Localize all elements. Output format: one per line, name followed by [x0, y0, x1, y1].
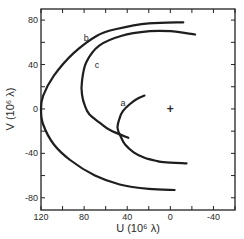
x-tick-label: 0 — [168, 212, 173, 222]
curve-b — [41, 22, 183, 190]
plot-frame — [41, 9, 235, 210]
curve-label-a: a — [120, 98, 125, 108]
curve-label-c: c — [95, 60, 100, 70]
x-tick-label: 80 — [79, 212, 89, 222]
curve-a — [117, 96, 186, 164]
y-tick-label: 0 — [33, 104, 38, 114]
annotations: bca+ — [84, 33, 174, 116]
uv-coverage-chart: 12080400-4080400-40-80 bca+ U (10⁶ λ) V … — [0, 0, 244, 239]
axis-ticks: 12080400-4080400-40-80 — [25, 9, 235, 222]
x-tick-label: 40 — [122, 212, 132, 222]
x-axis-label: U (10⁶ λ) — [116, 222, 160, 234]
origin-marker: + — [167, 102, 174, 116]
y-tick-label: 80 — [28, 15, 38, 25]
x-tick-label: 120 — [33, 212, 48, 222]
curve-label-b: b — [84, 33, 89, 43]
y-tick-label: 40 — [28, 60, 38, 70]
y-tick-label: -80 — [25, 193, 38, 203]
x-tick-label: -40 — [207, 212, 220, 222]
curve-c — [81, 31, 195, 138]
y-axis-label: V (10⁶ λ) — [4, 87, 16, 130]
y-tick-label: -40 — [25, 148, 38, 158]
